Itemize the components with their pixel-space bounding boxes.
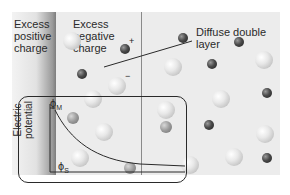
phi-m-label: ϕM: [50, 97, 62, 114]
phi-m-subscript: M: [56, 104, 62, 111]
potential-decay-curve: [55, 110, 185, 166]
diagram-lines: [0, 0, 290, 195]
phi-s-subscript: S: [64, 167, 69, 174]
diffuse-layer-pointer: [104, 41, 192, 67]
phi-s-label: ϕS: [58, 160, 69, 177]
